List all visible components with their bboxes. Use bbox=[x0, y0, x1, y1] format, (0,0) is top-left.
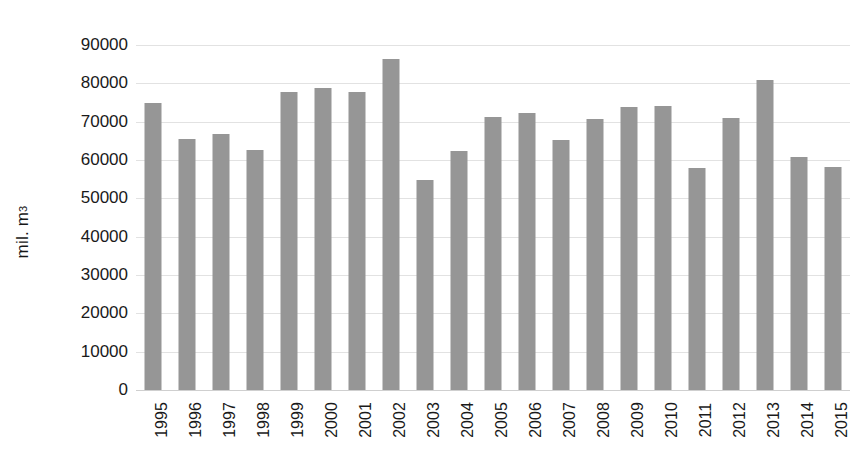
bar-slot bbox=[578, 45, 612, 390]
y-axis-tick-label: 30000 bbox=[8, 265, 128, 285]
x-axis-tick-label: 1996 bbox=[187, 402, 205, 438]
y-axis-tick-label: 20000 bbox=[8, 303, 128, 323]
bar-slot bbox=[680, 45, 714, 390]
bar[interactable] bbox=[723, 118, 740, 390]
x-label-slot: 2001 bbox=[340, 390, 374, 464]
y-axis-tick-label: 70000 bbox=[8, 112, 128, 132]
bar-slot bbox=[442, 45, 476, 390]
bar[interactable] bbox=[757, 80, 774, 391]
x-axis-tick-label: 2001 bbox=[357, 402, 375, 438]
bar-slot bbox=[238, 45, 272, 390]
bar[interactable] bbox=[825, 167, 842, 390]
bar[interactable] bbox=[417, 180, 434, 390]
x-label-slot: 2008 bbox=[578, 390, 612, 464]
bar-slot bbox=[136, 45, 170, 390]
bar-slot bbox=[510, 45, 544, 390]
x-axis-tick-label: 2003 bbox=[425, 402, 443, 438]
x-label-slot: 2012 bbox=[714, 390, 748, 464]
y-axis-tick-label: 10000 bbox=[8, 342, 128, 362]
x-axis-tick-labels: 1995199619971998199920002001200220032004… bbox=[136, 390, 850, 464]
x-label-slot: 1996 bbox=[170, 390, 204, 464]
x-axis-tick-label: 2007 bbox=[561, 402, 579, 438]
x-label-slot: 2007 bbox=[544, 390, 578, 464]
bar-slot bbox=[204, 45, 238, 390]
x-axis-tick-label: 1998 bbox=[255, 402, 273, 438]
bar[interactable] bbox=[145, 103, 162, 390]
bar[interactable] bbox=[315, 88, 332, 390]
bar[interactable] bbox=[519, 113, 536, 390]
x-axis-tick-label: 2012 bbox=[731, 402, 749, 438]
x-label-slot: 2000 bbox=[306, 390, 340, 464]
x-label-slot: 2014 bbox=[782, 390, 816, 464]
bar[interactable] bbox=[281, 92, 298, 390]
y-axis-tick-label: 90000 bbox=[8, 35, 128, 55]
bar-slot bbox=[816, 45, 850, 390]
bar-slot bbox=[306, 45, 340, 390]
x-axis-tick-label: 2009 bbox=[629, 402, 647, 438]
x-axis-tick-label: 1999 bbox=[289, 402, 307, 438]
bar[interactable] bbox=[179, 139, 196, 390]
x-axis-tick-label: 2006 bbox=[527, 402, 545, 438]
x-label-slot: 2006 bbox=[510, 390, 544, 464]
y-axis-tick-label: 50000 bbox=[8, 188, 128, 208]
bar-series bbox=[136, 45, 850, 390]
x-label-slot: 2004 bbox=[442, 390, 476, 464]
bar[interactable] bbox=[791, 157, 808, 390]
bar-chart: mil. m3 01000020000300004000050000600007… bbox=[0, 0, 866, 464]
bar-slot bbox=[170, 45, 204, 390]
bar-slot bbox=[272, 45, 306, 390]
x-axis-tick-label: 2011 bbox=[697, 403, 715, 437]
bar[interactable] bbox=[485, 117, 502, 390]
bar[interactable] bbox=[655, 106, 672, 390]
x-label-slot: 2002 bbox=[374, 390, 408, 464]
x-label-slot: 2010 bbox=[646, 390, 680, 464]
x-axis-tick-label: 2014 bbox=[799, 402, 817, 438]
bar[interactable] bbox=[451, 151, 468, 390]
x-label-slot: 2005 bbox=[476, 390, 510, 464]
bar[interactable] bbox=[553, 140, 570, 390]
x-axis-tick-label: 2000 bbox=[323, 402, 341, 438]
x-axis-tick-label: 2010 bbox=[663, 402, 681, 438]
y-axis-tick-label: 0 bbox=[8, 380, 128, 400]
x-axis-tick-label: 2013 bbox=[765, 402, 783, 438]
y-axis-tick-label: 80000 bbox=[8, 73, 128, 93]
x-label-slot: 2013 bbox=[748, 390, 782, 464]
bar-slot bbox=[340, 45, 374, 390]
x-label-slot: 2009 bbox=[612, 390, 646, 464]
bar-slot bbox=[782, 45, 816, 390]
bar[interactable] bbox=[587, 119, 604, 390]
bar[interactable] bbox=[349, 92, 366, 390]
y-axis-tick-labels: 0100002000030000400005000060000700008000… bbox=[0, 0, 128, 464]
bar-slot bbox=[646, 45, 680, 390]
x-axis-tick-label: 2008 bbox=[595, 402, 613, 438]
bar[interactable] bbox=[383, 59, 400, 390]
x-axis-tick-label: 1997 bbox=[221, 402, 239, 438]
x-label-slot: 1999 bbox=[272, 390, 306, 464]
y-axis-tick-label: 60000 bbox=[8, 150, 128, 170]
x-label-slot: 2015 bbox=[816, 390, 850, 464]
x-axis-tick-label: 1995 bbox=[153, 402, 171, 438]
bar[interactable] bbox=[247, 150, 264, 390]
x-label-slot: 2003 bbox=[408, 390, 442, 464]
bar[interactable] bbox=[689, 168, 706, 390]
x-axis-tick-label: 2002 bbox=[391, 402, 409, 438]
bar-slot bbox=[408, 45, 442, 390]
y-axis-tick-label: 40000 bbox=[8, 227, 128, 247]
x-label-slot: 1995 bbox=[136, 390, 170, 464]
x-label-slot: 2011 bbox=[680, 390, 714, 464]
x-label-slot: 1997 bbox=[204, 390, 238, 464]
x-label-slot: 1998 bbox=[238, 390, 272, 464]
bar-slot bbox=[476, 45, 510, 390]
bar-slot bbox=[748, 45, 782, 390]
bar[interactable] bbox=[621, 107, 638, 390]
bar-slot bbox=[612, 45, 646, 390]
x-axis-tick-label: 2015 bbox=[833, 402, 851, 438]
bar-slot bbox=[544, 45, 578, 390]
bar-slot bbox=[374, 45, 408, 390]
bar-slot bbox=[714, 45, 748, 390]
x-axis-tick-label: 2005 bbox=[493, 402, 511, 438]
x-axis-tick-label: 2004 bbox=[459, 402, 477, 438]
bar[interactable] bbox=[213, 134, 230, 390]
